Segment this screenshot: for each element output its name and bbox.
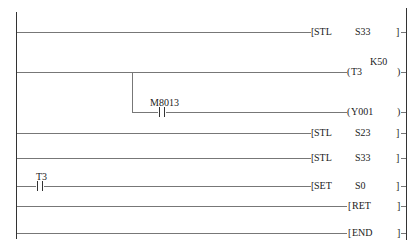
coil-close-paren: ) [397, 67, 400, 77]
rung-end-wire [401, 158, 406, 159]
rung-wire [17, 233, 347, 234]
normally-open-contact-icon [36, 181, 44, 191]
instruction-close-bracket: ] [397, 201, 400, 211]
instruction-operand: S0 [355, 181, 366, 191]
rung-wire [17, 32, 311, 33]
rung-end-wire [401, 112, 406, 113]
rung-wire [17, 206, 347, 207]
instruction-op: RET [352, 201, 371, 211]
normally-open-contact-icon [158, 107, 166, 117]
instruction-close-bracket: ] [396, 153, 399, 163]
instruction-op: END [352, 228, 373, 238]
instruction-open-bracket: [ [348, 228, 351, 238]
rung-end-wire [401, 32, 406, 33]
instruction-close-bracket: ] [396, 181, 399, 191]
rung-wire [17, 133, 311, 134]
left-power-rail [16, 12, 17, 239]
coil-open-paren: ( [347, 107, 350, 117]
instruction-close-bracket: ] [396, 27, 399, 37]
coil-name: T3 [351, 67, 362, 77]
instruction-close-bracket: ] [396, 128, 399, 138]
coil-open-paren: ( [347, 67, 350, 77]
rung-end-wire [401, 206, 406, 207]
rung-end-wire [401, 133, 406, 134]
instruction-operand: S23 [355, 128, 371, 138]
rung-wire [17, 72, 347, 73]
instruction-close-bracket: ] [397, 228, 400, 238]
timer-setting: K50 [370, 57, 387, 67]
branch-vertical-wire [132, 72, 133, 112]
rung-end-wire [401, 72, 406, 73]
instruction-op: STL [314, 128, 332, 138]
instruction-op: STL [314, 27, 332, 37]
rung-end-wire [401, 233, 406, 234]
rung-end-wire [401, 186, 406, 187]
instruction-open-bracket: [ [348, 201, 351, 211]
rung-wire [17, 186, 311, 187]
instruction-operand: S33 [355, 27, 371, 37]
instruction-op: SET [314, 181, 332, 191]
coil-close-paren: ) [397, 107, 400, 117]
instruction-op: STL [314, 153, 332, 163]
coil-name: Y001 [351, 107, 373, 117]
rung-wire [17, 158, 311, 159]
right-power-rail [406, 8, 407, 240]
instruction-operand: S33 [355, 153, 371, 163]
